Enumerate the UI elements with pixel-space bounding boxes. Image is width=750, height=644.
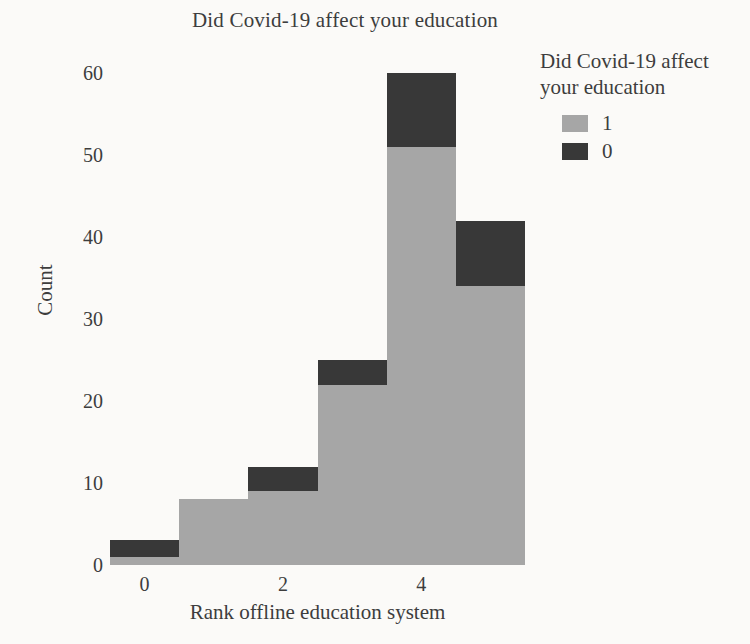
- y-tick-label: 10: [50, 471, 103, 495]
- legend-entry-0: 0: [562, 141, 745, 161]
- bar-segment-0: [318, 360, 388, 385]
- y-tick-label: 60: [50, 61, 103, 85]
- y-tick-label: 0: [50, 553, 103, 577]
- x-axis-label: Rank offline education system: [110, 600, 525, 625]
- legend-swatch-icon: [562, 115, 588, 132]
- bar-segment-1: [318, 385, 388, 565]
- x-tick-label: 2: [261, 572, 305, 596]
- bar-segment-0: [248, 467, 318, 492]
- bar-rank-4: [387, 73, 457, 565]
- y-tick-label: 40: [50, 225, 103, 249]
- bar-segment-1: [179, 499, 249, 565]
- legend-swatch-icon: [562, 143, 588, 160]
- bar-rank-5: [456, 221, 526, 565]
- legend-entries: 10: [562, 113, 745, 161]
- bar-segment-0: [387, 73, 457, 147]
- bar-segment-0: [110, 540, 180, 556]
- bar-rank-1: [179, 499, 249, 565]
- legend-entry-label: 0: [602, 141, 613, 161]
- bar-segment-0: [456, 221, 526, 287]
- bar-segment-1: [387, 147, 457, 565]
- y-tick-label: 30: [50, 307, 103, 331]
- legend-entry-1: 1: [562, 113, 745, 133]
- y-tick-label: 20: [50, 389, 103, 413]
- x-tick-label: 4: [399, 572, 443, 596]
- bar-segment-1: [456, 286, 526, 565]
- bar-rank-2: [248, 467, 318, 565]
- x-tick-label: 0: [123, 572, 167, 596]
- y-tick-label: 50: [50, 143, 103, 167]
- y-axis-label: Count: [33, 264, 58, 315]
- plot-area: [110, 45, 525, 565]
- legend-entry-label: 1: [602, 113, 613, 133]
- legend: Did Covid-19 affect your education 10: [540, 48, 745, 169]
- figure: Did Covid-19 affect your education 01020…: [0, 0, 750, 644]
- bar-segment-1: [110, 557, 180, 565]
- bar-segment-1: [248, 491, 318, 565]
- bar-rank-0: [110, 540, 180, 565]
- bar-rank-3: [318, 360, 388, 565]
- chart-title: Did Covid-19 affect your education: [110, 8, 580, 33]
- legend-title: Did Covid-19 affect your education: [540, 48, 745, 100]
